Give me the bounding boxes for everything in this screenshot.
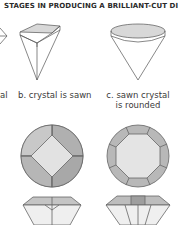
diagram-canvas <box>0 0 178 225</box>
caption-b: b. crystal is sawn <box>18 90 92 100</box>
sawn-crystal-icon <box>20 24 60 80</box>
caption-a: al <box>0 90 8 100</box>
brilliant-cut-side-view-icon <box>106 196 170 225</box>
square-cut-side-view-icon <box>23 197 81 225</box>
octagon-facet-top-view-icon <box>107 125 169 187</box>
square-facet-top-view-icon <box>21 125 83 187</box>
rounded-crystal-icon <box>111 24 165 80</box>
crystal-octahedron-icon <box>0 28 7 44</box>
caption-c-line1: c. sawn crystal <box>103 90 173 100</box>
caption-c-line2: is rounded <box>103 100 173 110</box>
